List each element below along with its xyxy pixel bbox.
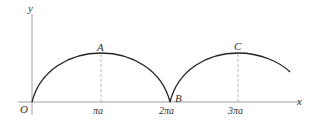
- point-b-label: B: [175, 92, 182, 104]
- y-axis-label: y: [27, 2, 33, 14]
- x-axis-label: x: [296, 95, 302, 107]
- tick-label-3pi-a: 3πa: [227, 105, 243, 116]
- origin-label: O: [20, 103, 28, 115]
- point-c-label: C: [234, 40, 242, 52]
- cycloid-diagram: y x O A B C πa 2πa 3πa: [0, 0, 324, 125]
- cycloid-arch-2: [170, 53, 290, 102]
- point-a-label: A: [96, 41, 104, 53]
- tick-label-pi-a: πa: [93, 105, 103, 116]
- tick-label-2pi-a: 2πa: [159, 105, 174, 116]
- diagram-svg: y x O A B C πa 2πa 3πa: [0, 0, 324, 125]
